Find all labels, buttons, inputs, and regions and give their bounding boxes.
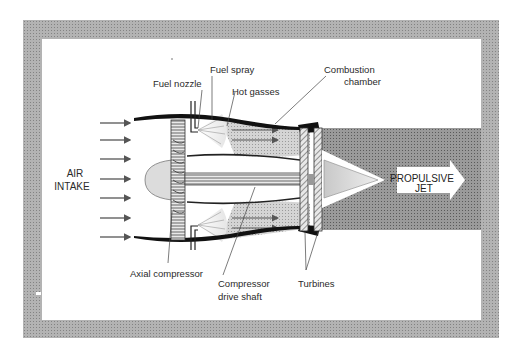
propulsive-jet-label-2: JET [415,183,433,194]
label-air-intake-1: AIR [67,168,84,179]
label-compressor-drive-shaft-2: drive shaft [218,291,262,302]
label-turbines: Turbines [298,278,335,289]
stray-dot [171,58,173,60]
label-fuel-spray: Fuel spray [210,64,255,75]
label-compressor-drive-shaft-1: Compressor [218,278,270,289]
label-air-intake-2: INTAKE [54,181,90,192]
compressor-drive-shaft [185,173,303,185]
label-fuel-nozzle: Fuel nozzle [153,78,202,89]
jet-engine-diagram: PROPULSIVE JET Fuel nozzle Fuel spray Ho… [0,0,523,358]
axial-compressor [171,120,185,240]
label-hot-gasses: Hot gasses [232,86,280,97]
label-combustion-chamber-1: Combustion [324,64,375,75]
label-axial-compressor: Axial compressor [130,268,203,279]
label-combustion-chamber-2: chamber [344,76,381,87]
